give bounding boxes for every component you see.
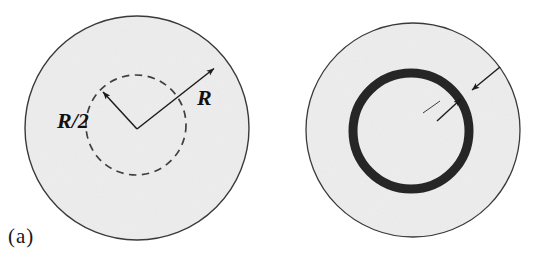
label-r-half: R/2: [57, 110, 89, 132]
panel-caption-a: (a): [8, 226, 34, 247]
panel-a: R/2 R (a): [0, 0, 271, 265]
panel-b: dr (b): [271, 0, 542, 265]
panel-b-drawing: [271, 0, 542, 265]
label-r: R: [197, 87, 212, 109]
panel-a-drawing: [0, 0, 271, 265]
outer-disc-fill: [306, 23, 520, 237]
physics-figure-disc-annulus: R/2 R (a): [0, 0, 542, 265]
